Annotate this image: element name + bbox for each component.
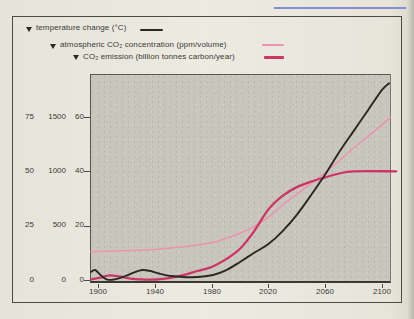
y-tick-temp-75: 75	[10, 112, 34, 121]
legend-line-sample-co2-emission	[264, 56, 284, 59]
x-tick-2060: 2060	[316, 287, 334, 296]
x-tick-mark	[268, 284, 269, 288]
x-tick-mark	[212, 284, 213, 288]
x-tick-mark	[98, 284, 99, 288]
y-tick-temp-50: 50	[10, 166, 34, 175]
x-tick-2100: 2100	[373, 287, 391, 296]
y-tick-emis-0: 0	[60, 275, 84, 284]
y-tick-temp-0: 0	[10, 275, 34, 284]
triangle-down-icon	[73, 55, 79, 60]
legend-line-sample-temperature	[140, 29, 163, 31]
triangle-down-icon	[50, 44, 56, 49]
x-tick-1940: 1940	[146, 287, 164, 296]
x-tick-mark	[155, 284, 156, 288]
y-tick-emis-20: 20	[60, 220, 84, 229]
plot-curves	[90, 74, 391, 283]
x-tick-1900: 1900	[89, 287, 107, 296]
triangle-down-icon	[26, 27, 32, 32]
co2_concentration-curve	[91, 117, 391, 251]
x-tick-1980: 1980	[203, 287, 221, 296]
legend-label-co2-concentration: atmospheric CO₂ concentration (ppm/volum…	[60, 40, 226, 49]
y-tick-emis-60: 60	[60, 112, 84, 121]
y-tick-emis-40: 40	[60, 166, 84, 175]
legend-label-co2-emission: CO₂ emission (billion tonnes carbon/year…	[83, 52, 235, 61]
x-tick-2020: 2020	[259, 287, 277, 296]
x-tick-mark	[382, 284, 383, 288]
page-edge-line	[274, 7, 406, 9]
scanned-page: temperature change (°C) atmospheric CO₂ …	[0, 0, 414, 319]
co2_emission-curve	[91, 171, 396, 279]
legend-line-sample-co2-concentration	[262, 44, 284, 46]
x-tick-mark	[325, 284, 326, 288]
y-tick-temp-25: 25	[10, 220, 34, 229]
legend-label-temperature: temperature change (°C)	[36, 23, 126, 32]
